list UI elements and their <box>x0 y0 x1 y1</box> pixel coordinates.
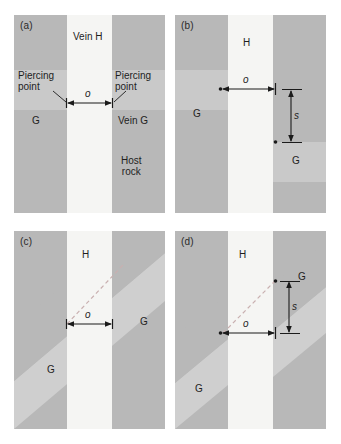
figure-container: (a) Vein H G Vein G Host rock Piercing p… <box>0 0 341 444</box>
label-vein-h-c: H <box>82 249 89 260</box>
label-g-right-d: G <box>298 271 306 282</box>
label-host-rock-a: Host rock <box>121 155 142 177</box>
separation-arrowhead-bottom-b <box>288 135 294 142</box>
label-separation-symbol-d: s <box>292 301 297 312</box>
panel-b: (b) H G G o s <box>175 15 326 213</box>
offset-arrowhead-right-d <box>268 330 275 336</box>
label-g-left-c: G <box>47 364 55 375</box>
label-piercing-point-right-a: Piercing point <box>115 70 151 92</box>
label-offset-symbol-b: o <box>243 74 249 85</box>
annotation-layer-d <box>175 231 326 429</box>
dashed-projection-line-d <box>223 281 275 333</box>
piercing-point-right-d <box>274 279 278 283</box>
offset-arrowhead-right-c <box>105 321 112 327</box>
separation-arrowhead-top-b <box>288 90 294 97</box>
panel-a: (a) Vein H G Vein G Host rock Piercing p… <box>14 15 165 213</box>
leader-line-right-a <box>114 91 126 102</box>
panel-d: (d) H G G o s <box>175 231 326 429</box>
panel-c: (c) H G G o <box>14 231 165 429</box>
label-separation-symbol-b: s <box>294 110 299 121</box>
label-vein-h-a: Vein H <box>73 31 102 42</box>
leader-line-left-a <box>53 91 66 102</box>
label-offset-symbol-a: o <box>85 88 91 99</box>
offset-arrowhead-right-a <box>105 100 112 106</box>
label-g-left-b: G <box>193 108 201 119</box>
offset-arrowhead-left-b <box>222 86 229 92</box>
piercing-point-right-b <box>274 140 278 144</box>
panel-tag-d: (d) <box>181 236 194 247</box>
label-piercing-point-left-a: Piercing point <box>18 70 54 92</box>
annotation-layer-c <box>14 231 165 429</box>
label-vein-h-b: H <box>243 37 250 48</box>
offset-arrowhead-left-a <box>67 100 74 106</box>
offset-arrowhead-right-b <box>268 86 275 92</box>
panel-tag-c: (c) <box>20 236 32 247</box>
label-g-right-c: G <box>140 316 148 327</box>
dashed-projection-line-c <box>67 264 124 324</box>
label-offset-symbol-d: o <box>243 318 249 329</box>
piercing-point-left-b <box>219 87 223 91</box>
label-vein-g-a: Vein G <box>118 115 148 126</box>
label-g-right-b: G <box>292 155 300 166</box>
label-offset-symbol-c: o <box>85 309 91 320</box>
panel-tag-b: (b) <box>181 20 194 31</box>
separation-arrowhead-bottom-d <box>286 326 292 333</box>
piercing-point-left-d <box>219 331 223 335</box>
annotation-layer-a <box>14 15 165 213</box>
label-g-left-a: G <box>32 115 40 126</box>
panel-tag-a: (a) <box>20 20 33 31</box>
separation-arrowhead-top-d <box>286 281 292 288</box>
label-g-left-d: G <box>195 383 203 394</box>
label-vein-h-d: H <box>239 249 246 260</box>
